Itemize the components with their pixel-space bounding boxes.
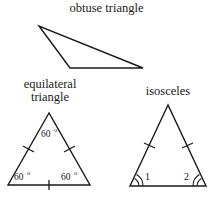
equilateral-triangle-shape: 60 o 60 o 60 o	[8, 113, 90, 190]
equilateral-right-degree-symbol: o	[74, 169, 77, 176]
isosceles-left-angle-arc-inner	[135, 179, 140, 187]
isosceles-left-angle-number: 1	[145, 171, 150, 182]
equilateral-tick-left	[23, 146, 34, 152]
equilateral-apex-angle: 60	[41, 129, 51, 139]
equilateral-left-angle: 60	[14, 172, 24, 182]
isosceles-right-angle-arc-inner	[197, 179, 202, 187]
equilateral-left-degree-symbol: o	[27, 169, 30, 176]
equilateral-right-angle: 60	[61, 172, 71, 182]
geometry-figure: obtuse triangle equilateral triangle iso…	[0, 0, 213, 198]
equilateral-apex-degree-symbol: o	[54, 126, 57, 133]
obtuse-triangle-shape	[39, 26, 143, 68]
isosceles-triangle-shape: 1 2	[130, 105, 206, 186]
triangles-svg: 60 o 60 o 60 o 1 2	[0, 0, 213, 198]
equilateral-tick-right	[64, 146, 75, 152]
isosceles-right-angle-number: 2	[184, 171, 189, 182]
